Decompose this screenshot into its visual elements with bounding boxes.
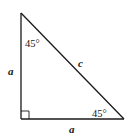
hypotenuse	[21, 13, 124, 119]
right-angle-marker	[21, 111, 29, 119]
bottom-side-label: a	[69, 123, 75, 135]
top-angle-label: 45°	[25, 38, 40, 49]
bottom-right-angle-label: 45°	[92, 108, 107, 119]
hypotenuse-label: c	[78, 57, 83, 69]
left-side-label: a	[8, 65, 14, 77]
triangle-diagram: 45° 45° a a c	[0, 0, 130, 139]
